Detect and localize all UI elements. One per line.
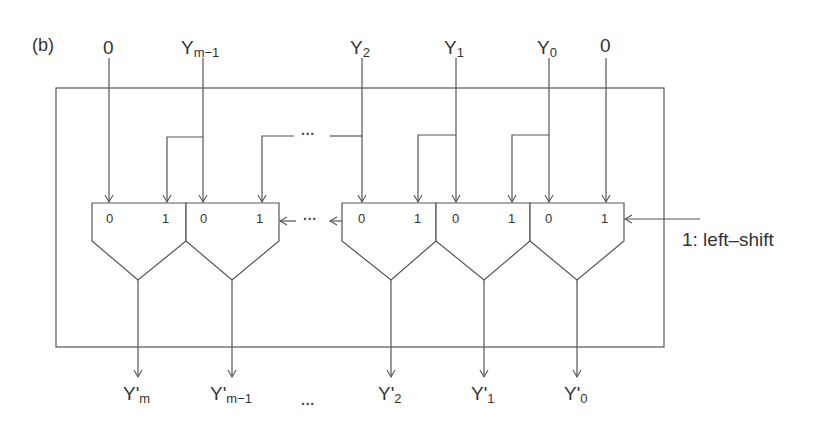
mux-2-pin1: 1 bbox=[256, 212, 263, 225]
wire-y0-branch bbox=[512, 135, 549, 202]
input-label-zero-left: 0 bbox=[103, 38, 114, 57]
input-label-y2: Y2 bbox=[350, 38, 370, 59]
mux-2-pin0: 0 bbox=[200, 212, 207, 225]
control-label: 1: left–shift bbox=[682, 230, 774, 249]
mux-1-pin1: 1 bbox=[162, 212, 169, 225]
mux-5-pin1: 1 bbox=[601, 212, 608, 225]
input-label-y0: Y0 bbox=[537, 38, 557, 59]
mux-5-pin0: 0 bbox=[545, 212, 552, 225]
mux-4-pin1: 1 bbox=[508, 212, 515, 225]
mux-4 bbox=[436, 203, 530, 280]
output-label-ym: Y'm bbox=[123, 384, 150, 405]
ellipsis-top: ··· bbox=[301, 127, 315, 141]
mux-group-left bbox=[92, 203, 279, 280]
input-label-ym1: Ym−1 bbox=[181, 38, 219, 59]
output-label-y0: Y'0 bbox=[564, 384, 588, 405]
mux-3-pin1: 1 bbox=[414, 212, 421, 225]
wire-ym1-branch bbox=[167, 137, 203, 202]
input-label-y1: Y1 bbox=[444, 38, 464, 59]
figure-label: (b) bbox=[32, 36, 54, 54]
ellipsis-control: ··· bbox=[303, 212, 317, 226]
mux-3 bbox=[342, 203, 436, 280]
mux-4-pin0: 0 bbox=[452, 212, 459, 225]
output-label-y2: Y'2 bbox=[378, 384, 402, 405]
mux-1-pin0: 0 bbox=[106, 212, 113, 225]
ellipsis-outputs: ··· bbox=[301, 397, 315, 411]
input-label-zero-right: 0 bbox=[600, 36, 611, 55]
wire-y2-branch-b bbox=[262, 136, 294, 202]
output-label-ym1: Y'm−1 bbox=[210, 384, 252, 405]
mux-3-pin0: 0 bbox=[358, 212, 365, 225]
wire-y1-branch bbox=[418, 135, 456, 202]
output-label-y1: Y'1 bbox=[471, 384, 495, 405]
mux-group-right bbox=[342, 203, 624, 280]
